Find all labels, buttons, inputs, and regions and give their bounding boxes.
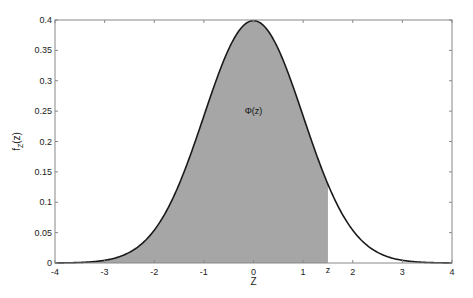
y-tick-label: 0 xyxy=(47,258,52,268)
y-tick-label: 0.05 xyxy=(34,228,52,238)
y-tick-label: 0.15 xyxy=(34,167,52,177)
x-tick-label: -4 xyxy=(51,267,59,277)
x-tick-label: 4 xyxy=(449,267,454,277)
y-tick-label: 0.4 xyxy=(39,15,52,25)
y-tick-label: 0.2 xyxy=(39,137,52,147)
y-tick-label: 0.3 xyxy=(39,76,52,86)
x-tick-label: -3 xyxy=(101,267,109,277)
y-tick-label: 0.1 xyxy=(39,197,52,207)
x-tick-label: 2 xyxy=(350,267,355,277)
x-tick-label: 3 xyxy=(400,267,405,277)
y-axis-label: fZ(z) xyxy=(11,132,24,151)
phi-annotation: Φ(z) xyxy=(245,106,263,116)
x-tick-label: -1 xyxy=(200,267,208,277)
normal-distribution-chart: -4-3-2-101234 00.050.10.150.20.250.30.35… xyxy=(0,0,473,298)
x-axis-label: Z xyxy=(250,276,256,287)
y-axis-label-arg: (z) xyxy=(11,132,22,144)
x-tick-label: -2 xyxy=(150,267,158,277)
svg-text:fZ(z): fZ(z) xyxy=(11,132,24,151)
y-tick-label: 0.25 xyxy=(34,106,52,116)
y-tick-label: 0.35 xyxy=(34,45,52,55)
z-marker-label: z xyxy=(326,265,331,275)
x-tick-label: 1 xyxy=(301,267,306,277)
